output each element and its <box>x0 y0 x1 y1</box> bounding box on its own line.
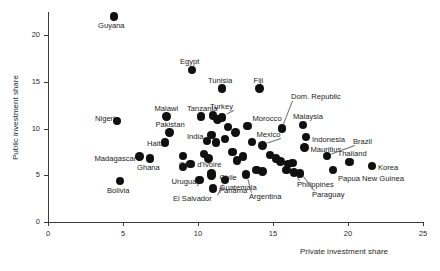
point-label: Argentina <box>249 193 282 201</box>
leader-line <box>267 139 280 144</box>
data-point <box>239 152 247 160</box>
point-label: Guyana <box>98 22 125 30</box>
point-label: Bolivia <box>107 187 129 195</box>
data-point <box>248 138 256 146</box>
x-axis-line <box>48 222 423 223</box>
point-label: Thailand <box>338 150 367 158</box>
data-point <box>218 84 226 92</box>
point-label: Ghana <box>137 164 160 172</box>
data-point <box>188 66 196 74</box>
point-label: Fiji <box>254 77 264 85</box>
x-tick-label: 5 <box>108 230 138 238</box>
plot-area: 051015202505101520 GuyanaEgyptTunisiaFij… <box>0 0 440 271</box>
data-point <box>179 152 187 160</box>
data-point <box>110 12 118 20</box>
point-label: Morocco <box>253 115 282 123</box>
y-tick-mark <box>44 129 48 130</box>
data-point <box>207 171 215 179</box>
point-label: Tunisia <box>208 77 232 85</box>
leader-line <box>283 100 293 124</box>
y-tick-label: 20 <box>10 31 40 39</box>
point-label: El Salvador <box>173 195 212 203</box>
point-label: Turkey <box>210 103 233 111</box>
point-label: Uruguay <box>172 178 201 186</box>
data-point <box>299 121 307 129</box>
point-label: Mexico <box>257 131 281 139</box>
point-label: Paraguay <box>312 191 345 199</box>
data-point <box>212 138 220 146</box>
y-axis-title: Public investment share <box>12 75 20 160</box>
data-point <box>302 133 310 141</box>
data-point <box>231 128 239 136</box>
point-label: Pakistan <box>156 121 185 129</box>
data-point <box>258 167 266 175</box>
x-tick-mark <box>48 222 49 226</box>
data-point <box>116 177 124 185</box>
data-point <box>221 135 229 143</box>
x-tick-mark <box>273 222 274 226</box>
y-axis-line <box>48 12 49 223</box>
data-point <box>135 152 143 160</box>
data-point <box>345 158 353 166</box>
point-label: Papua New Guinea <box>338 175 404 183</box>
data-point <box>368 162 376 170</box>
y-tick-mark <box>44 35 48 36</box>
x-tick-label: 20 <box>333 230 363 238</box>
data-point <box>255 84 263 92</box>
data-point <box>224 123 232 131</box>
x-tick-label: 25 <box>408 230 438 238</box>
scatter-plot-figure: 051015202505101520 GuyanaEgyptTunisiaFij… <box>0 0 440 271</box>
point-label: Nigeria <box>95 115 119 123</box>
data-point <box>165 128 173 136</box>
point-label: Korea <box>378 164 398 172</box>
y-tick-label: 5 <box>10 171 40 179</box>
data-point <box>258 141 266 149</box>
data-point <box>243 122 251 130</box>
point-label: Malawi <box>155 105 179 113</box>
point-label: Panama <box>219 187 247 195</box>
y-tick-mark <box>44 222 48 223</box>
point-label: India <box>187 133 203 141</box>
x-tick-label: 15 <box>258 230 288 238</box>
data-point <box>242 170 250 178</box>
data-point <box>203 137 211 145</box>
data-point <box>228 148 236 156</box>
y-tick-mark <box>44 175 48 176</box>
y-tick-label: 0 <box>10 218 40 226</box>
data-point <box>329 166 337 174</box>
x-tick-label: 0 <box>33 230 63 238</box>
point-label: Côte d'Ivoire <box>179 161 221 169</box>
x-tick-mark <box>198 222 199 226</box>
leader-line <box>226 111 234 116</box>
point-label: Indonesia <box>312 136 345 144</box>
x-axis-title: Private investment share <box>300 248 388 256</box>
data-point <box>197 112 205 120</box>
point-label: Malaysia <box>293 113 323 121</box>
x-tick-label: 10 <box>183 230 213 238</box>
data-point <box>300 143 308 151</box>
point-label: Philippines <box>297 181 334 189</box>
x-tick-mark <box>348 222 349 226</box>
point-label: Brazil <box>353 138 372 146</box>
y-tick-mark <box>44 82 48 83</box>
x-tick-mark <box>423 222 424 226</box>
data-point <box>218 113 226 121</box>
data-point <box>209 184 217 192</box>
point-label: Dom. Republic <box>291 93 341 101</box>
x-tick-mark <box>123 222 124 226</box>
point-label: Egypt <box>180 58 199 66</box>
point-label: Madagascar <box>95 155 137 163</box>
data-point <box>146 154 154 162</box>
point-label: Haiti <box>147 140 162 148</box>
point-label: Chile <box>220 174 237 182</box>
